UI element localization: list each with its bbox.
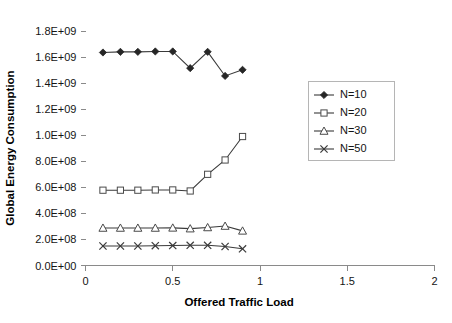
y-tick-label: 6.0E+08 [35, 181, 76, 193]
x-tick-label: 2 [431, 275, 437, 287]
series-n30 [99, 222, 247, 234]
data-point-marker [135, 187, 141, 193]
data-point-marker [321, 110, 327, 116]
data-point-marker [117, 187, 123, 193]
series-n10 [99, 48, 246, 80]
series-group [99, 48, 247, 253]
data-point-marker [222, 157, 228, 163]
chart-legend: N=10N=20N=30N=50 [308, 81, 394, 160]
data-point-marker [100, 187, 106, 193]
x-tick-label: 0.5 [165, 275, 180, 287]
series-line [103, 137, 243, 191]
series-n20 [100, 133, 246, 194]
x-tick-label: 1.5 [340, 275, 355, 287]
data-point-marker [239, 66, 246, 73]
y-tick-label: 0.0E+00 [35, 260, 76, 272]
y-tick-label: 1.6E+09 [35, 51, 76, 63]
data-point-marker [117, 48, 124, 55]
y-tick-label: 1.0E+09 [35, 129, 76, 141]
legend-label: N=30 [340, 124, 367, 136]
data-point-marker [239, 133, 245, 139]
y-axis-ticks: 0.0E+002.0E+084.0E+086.0E+088.0E+081.0E+… [35, 25, 85, 272]
x-axis-ticks: 00.511.52 [82, 266, 437, 287]
data-point-marker [170, 187, 176, 193]
data-point-marker [152, 48, 159, 55]
data-point-marker [222, 72, 229, 79]
line-chart: 0.0E+002.0E+084.0E+086.0E+088.0E+081.0E+… [0, 0, 452, 323]
data-point-marker [205, 171, 211, 177]
data-point-marker [134, 48, 141, 55]
y-tick-label: 1.2E+09 [35, 103, 76, 115]
chart-container: 0.0E+002.0E+084.0E+086.0E+088.0E+081.0E+… [0, 0, 452, 323]
x-tick-label: 0 [82, 275, 88, 287]
y-tick-label: 2.0E+08 [35, 233, 76, 245]
y-tick-label: 4.0E+08 [35, 207, 76, 219]
y-tick-label: 1.4E+09 [35, 77, 76, 89]
series-n50 [99, 242, 246, 253]
legend-label: N=50 [340, 142, 367, 154]
legend-label: N=20 [340, 106, 367, 118]
y-tick-label: 8.0E+08 [35, 155, 76, 167]
x-tick-label: 1 [257, 275, 263, 287]
x-axis-title: Offered Traffic Load [184, 296, 293, 308]
legend-label: N=10 [340, 88, 367, 100]
y-tick-label: 1.8E+09 [35, 25, 76, 37]
data-point-marker [187, 188, 193, 194]
y-axis-title: Global Energy Consumption [4, 70, 16, 225]
data-point-marker [152, 187, 158, 193]
data-point-marker [99, 49, 106, 56]
data-point-marker [221, 222, 229, 229]
